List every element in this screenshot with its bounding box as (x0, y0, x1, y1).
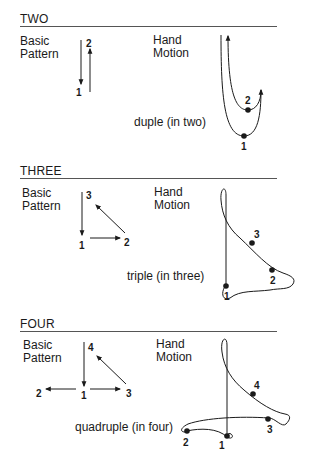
svg-text:3: 3 (254, 229, 260, 240)
svg-text:3: 3 (267, 424, 273, 435)
svg-text:2: 2 (270, 275, 276, 286)
svg-text:1: 1 (241, 141, 247, 152)
svg-text:2: 2 (36, 388, 42, 399)
svg-text:4: 4 (254, 380, 260, 391)
svg-text:1: 1 (224, 291, 230, 302)
svg-text:1: 1 (219, 440, 225, 451)
two-hand-motion (221, 35, 261, 136)
beat-dot-1 (223, 283, 229, 289)
beat-dot-2 (245, 107, 251, 113)
svg-text:1: 1 (76, 87, 82, 98)
beat-dots (184, 107, 275, 439)
conducting-patterns-diagram: 1 2 1 2 1 2 3 1 2 3 1 2 3 4 1 2 3 4 (0, 0, 333, 454)
svg-text:2: 2 (183, 437, 189, 448)
svg-text:3: 3 (86, 190, 92, 201)
beat-dot-1 (224, 433, 230, 439)
beat-dot-4 (250, 391, 256, 397)
svg-text:2: 2 (245, 95, 251, 106)
svg-text:2: 2 (124, 237, 130, 248)
svg-text:2: 2 (86, 38, 92, 49)
svg-text:1: 1 (79, 240, 85, 251)
beat-dot-2 (269, 267, 275, 273)
beat-dot-2 (184, 428, 190, 434)
beat-dot-3 (249, 240, 255, 246)
beat-dot-1 (241, 133, 247, 139)
four-hand-motion (182, 339, 290, 438)
svg-text:1: 1 (81, 390, 87, 401)
beat-dot-3 (265, 416, 271, 422)
svg-text:4: 4 (88, 342, 94, 353)
three-hand-motion (221, 189, 294, 299)
arrow-diagonal-icon (97, 356, 126, 384)
svg-text:3: 3 (126, 388, 132, 399)
arrow-diagonal-icon (96, 205, 125, 233)
four-basic-pattern (46, 342, 126, 389)
